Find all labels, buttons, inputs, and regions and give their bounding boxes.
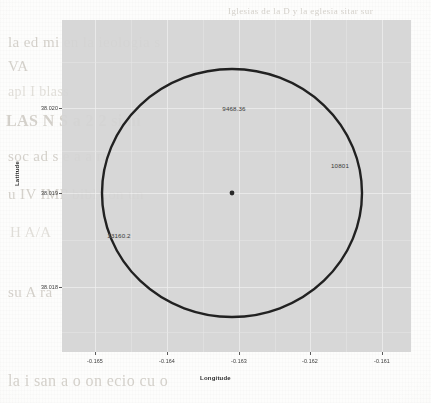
- y-tick-label-wrap: 38.019: [30, 193, 58, 199]
- geo-scatter-chart: 9468.36 10801 13160.2 38.020 38.019 38.0…: [0, 0, 431, 403]
- y-tick-label-wrap: 38.018: [30, 287, 58, 293]
- plot-panel: 9468.36 10801 13160.2: [62, 20, 411, 352]
- scanned-figure-page: Iglesias de la D y la eglesia sitar sur …: [0, 0, 431, 403]
- circle-outline-shape: [62, 20, 411, 352]
- x-tick-label: -0.161: [374, 358, 390, 364]
- annotation-top: 9468.36: [222, 105, 245, 112]
- x-tick-label-wrap: -0.165: [95, 358, 111, 364]
- center-point-marker: [230, 191, 235, 196]
- y-tick-mark: [59, 193, 62, 194]
- y-axis-title: Latitude: [14, 161, 20, 186]
- y-tick-label: 38.019: [30, 190, 58, 196]
- x-tick-label: -0.165: [87, 358, 103, 364]
- y-tick-label: 38.018: [30, 284, 58, 290]
- annotation-left: 13160.2: [107, 232, 130, 239]
- x-tick-mark: [310, 352, 311, 355]
- x-tick-mark: [95, 352, 96, 355]
- annotation-right: 10801: [331, 162, 349, 169]
- x-tick-label-wrap: -0.164: [167, 358, 183, 364]
- x-tick-mark: [167, 352, 168, 355]
- x-tick-label: -0.162: [302, 358, 318, 364]
- x-tick-mark: [382, 352, 383, 355]
- y-tick-mark: [59, 287, 62, 288]
- x-tick-label-wrap: -0.161: [382, 358, 398, 364]
- data-layer: 9468.36 10801 13160.2: [62, 20, 411, 352]
- x-tick-label-wrap: -0.162: [310, 358, 326, 364]
- x-tick-label: -0.163: [231, 358, 247, 364]
- x-tick-mark: [239, 352, 240, 355]
- y-tick-mark: [59, 108, 62, 109]
- y-tick-label: 38.020: [30, 105, 58, 111]
- y-tick-label-wrap: 38.020: [30, 108, 58, 114]
- x-axis-title: Longitude: [0, 375, 431, 381]
- x-tick-label-wrap: -0.163: [239, 358, 255, 364]
- x-tick-label: -0.164: [159, 358, 175, 364]
